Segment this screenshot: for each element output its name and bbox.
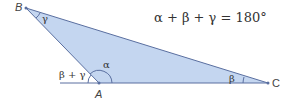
exterior-arc — [88, 75, 91, 83]
vertex-c-dot — [267, 82, 270, 85]
vertex-label-a: A — [95, 89, 102, 100]
vertex-b-dot — [25, 7, 28, 10]
triangle-diagram: B A C α + β + γ = 180° γ α β + γ β — [0, 0, 287, 104]
vertex-a-dot — [98, 82, 101, 85]
gamma-label: γ — [42, 14, 48, 24]
vertex-label-b: B — [15, 2, 22, 13]
exterior-angle-label: β + γ — [59, 70, 86, 80]
angle-sum-equation: α + β + γ = 180° — [154, 11, 267, 24]
beta-label: β — [229, 74, 235, 84]
vertex-label-c: C — [272, 78, 280, 89]
alpha-label: α — [103, 60, 110, 70]
